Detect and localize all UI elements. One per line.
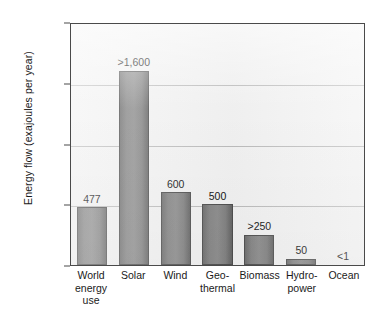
bar-geothermal[interactable] xyxy=(202,204,232,265)
bar-hydropower[interactable] xyxy=(286,259,316,265)
bar-solar[interactable] xyxy=(119,71,149,265)
bar-ocean[interactable] xyxy=(328,265,358,266)
bar-value-solar: >1,600 xyxy=(118,56,150,68)
x-label-biomass: Biomass xyxy=(239,269,281,307)
bar-value-biomass: >250 xyxy=(248,220,272,232)
x-label-line2: energy use xyxy=(70,282,112,307)
x-label-line1: Biomass xyxy=(240,269,280,281)
x-label-line1: Solar xyxy=(121,269,146,281)
x-label-line1: World xyxy=(77,269,104,281)
y-axis-title: Energy flow (exajoules per year) xyxy=(22,8,34,248)
x-label-line1: Geo- xyxy=(206,269,229,281)
bar-value-geothermal: 500 xyxy=(209,190,227,202)
bar-value-wind: 600 xyxy=(167,178,185,190)
x-label-line1: Ocean xyxy=(328,269,359,281)
bar-slot-hydropower[interactable]: 50 xyxy=(280,24,322,265)
bar-slot-ocean[interactable]: <1 xyxy=(322,24,364,265)
x-label-solar: Solar xyxy=(112,269,154,307)
x-label-line1: Wind xyxy=(163,269,187,281)
bar-slot-world-energy-use[interactable]: 477 xyxy=(71,24,113,265)
bars-group: 477 >1,600 600 500 >250 50 xyxy=(71,24,364,265)
bar-wind[interactable] xyxy=(161,192,191,265)
bar-slot-biomass[interactable]: >250 xyxy=(238,24,280,265)
plot-area: 477 >1,600 600 500 >250 50 xyxy=(70,23,365,266)
x-label-line1: Hydro- xyxy=(286,269,318,281)
bar-slot-geothermal[interactable]: 500 xyxy=(197,24,239,265)
bar-world-energy-use[interactable] xyxy=(77,207,107,265)
x-label-ocean: Ocean xyxy=(323,269,365,307)
x-axis-category-labels: World energy use Solar Wind Geo- thermal… xyxy=(70,269,365,307)
x-label-wind: Wind xyxy=(154,269,196,307)
bar-slot-solar[interactable]: >1,600 xyxy=(113,24,155,265)
x-label-world-energy-use: World energy use xyxy=(70,269,112,307)
bar-value-hydropower: 50 xyxy=(295,244,307,256)
bar-value-world-energy-use: 477 xyxy=(83,193,101,205)
bar-chart-figure: Energy flow (exajoules per year) 2,000 1… xyxy=(0,0,380,309)
x-label-line2: power xyxy=(281,282,323,295)
bar-biomass[interactable] xyxy=(244,235,274,265)
bar-slot-wind[interactable]: 600 xyxy=(155,24,197,265)
x-label-geothermal: Geo- thermal xyxy=(196,269,238,307)
x-label-hydropower: Hydro- power xyxy=(281,269,323,307)
bar-value-ocean: <1 xyxy=(337,250,349,262)
x-label-line2: thermal xyxy=(196,282,238,295)
